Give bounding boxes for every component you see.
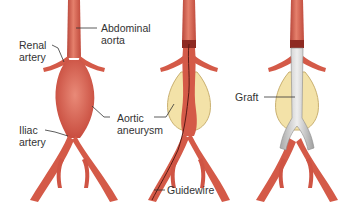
label-renal-artery: Renal artery (19, 39, 46, 63)
label-iliac-artery: Iliac artery (19, 124, 46, 148)
abdominal-aorta (67, 0, 81, 58)
label-graft: Graft (235, 91, 258, 103)
panel-graft (256, 0, 338, 202)
aneurysm-bulge (55, 60, 94, 138)
panel-guidewire (148, 0, 230, 202)
label-abdominal-aorta: Abdominal aorta (101, 22, 151, 46)
label-aortic-aneurysm: Aortic aneurysm (117, 112, 163, 136)
aorta (182, 0, 196, 42)
iliac-artery-right (72, 136, 118, 202)
label-guidewire: Guidewire (167, 184, 214, 196)
